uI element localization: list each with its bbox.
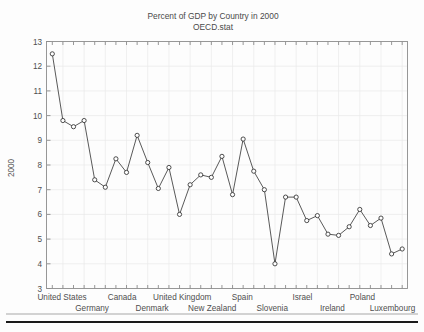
grid-lines (47, 42, 408, 289)
data-point-marker (262, 188, 266, 192)
x-axis-labels: United StatesGermanyCanadaDenmarkUnited … (37, 293, 415, 313)
data-point-marker (230, 193, 234, 197)
data-point-marker (283, 195, 287, 199)
y-tick-label: 13 (33, 38, 43, 47)
data-point-marker (305, 218, 309, 222)
data-point-marker (167, 165, 171, 169)
data-point-marker (177, 212, 181, 216)
data-point-marker (358, 207, 362, 211)
x-tick-label: Germany (75, 304, 110, 313)
x-tick-label: Spain (232, 293, 253, 302)
data-series (50, 52, 404, 266)
x-tick-label: Ireland (320, 304, 345, 313)
data-point-marker (209, 175, 213, 179)
data-point-marker (71, 125, 75, 129)
data-point-marker (93, 178, 97, 182)
data-point-marker (326, 232, 330, 236)
data-point-marker (379, 216, 383, 220)
data-point-marker (347, 225, 351, 229)
data-point-marker (220, 154, 224, 158)
x-tick-label: Luxembourg (370, 304, 416, 313)
chart-subtitle: OECD.stat (193, 22, 234, 32)
gdp-line-chart: Percent of GDP by Country in 2000 OECD.s… (0, 0, 424, 332)
y-tick-label: 10 (33, 112, 43, 121)
data-point-marker (50, 52, 54, 56)
y-tick-label: 7 (37, 186, 42, 195)
y-tick-label: 11 (34, 87, 43, 96)
data-point-marker (124, 170, 128, 174)
x-tick-label: United Kingdom (153, 293, 211, 302)
data-point-marker (315, 214, 319, 218)
data-point-marker (294, 195, 298, 199)
data-point-marker (390, 252, 394, 256)
data-point-marker (82, 118, 86, 122)
data-point-marker (114, 157, 118, 161)
data-point-marker (199, 173, 203, 177)
x-tick-label: Slovenia (257, 304, 289, 313)
y-tick-label: 12 (33, 62, 43, 71)
series-polyline (52, 54, 402, 264)
y-tick-label: 4 (37, 260, 42, 269)
data-point-marker (252, 169, 256, 173)
y-axis-label: 2000 (7, 158, 16, 177)
data-point-marker (188, 183, 192, 187)
y-tick-label: 6 (37, 210, 42, 219)
x-tick-label: Denmark (135, 304, 169, 313)
x-tick-label: Poland (350, 293, 376, 302)
data-point-marker (103, 185, 107, 189)
x-tick-label: Canada (108, 293, 137, 302)
data-point-marker (336, 233, 340, 237)
y-tick-label: 8 (37, 161, 42, 170)
data-point-marker (135, 133, 139, 137)
data-point-marker (61, 118, 65, 122)
y-tick-label: 5 (37, 235, 42, 244)
data-point-marker (241, 137, 245, 141)
data-point-marker (400, 247, 404, 251)
data-point-marker (146, 160, 150, 164)
x-tick-label: United States (37, 293, 86, 302)
data-point-marker (273, 262, 277, 266)
y-tick-label: 9 (37, 136, 42, 145)
y-axis-ticks: 345678910111213 (33, 38, 51, 294)
x-tick-label: New Zealand (188, 304, 237, 313)
data-point-marker (156, 186, 160, 190)
chart-page: Percent of GDP by Country in 2000 OECD.s… (0, 0, 424, 332)
chart-titles: Percent of GDP by Country in 2000 OECD.s… (147, 11, 278, 32)
data-point-marker (368, 223, 372, 227)
chart-title: Percent of GDP by Country in 2000 (147, 11, 278, 21)
x-tick-label: Israel (292, 293, 312, 302)
